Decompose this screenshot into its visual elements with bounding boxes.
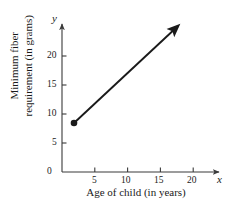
y-axis [62, 24, 67, 172]
x-tick-label-5: 5 [92, 176, 97, 186]
y-axis-ticks [62, 56, 67, 143]
x-axis-title: Age of child (in years) [56, 187, 216, 199]
y-tick-label-15: 15 [47, 80, 57, 90]
x-axis-symbol: x [217, 174, 222, 185]
x-tick-label-10: 10 [121, 176, 131, 186]
x-tick-label-15: 15 [154, 176, 164, 186]
x-axis-ticks [95, 168, 193, 173]
y-tick-label-5: 5 [52, 138, 57, 148]
start-point-marker [71, 120, 78, 127]
y-axis-title-line-2: requirement (in grams) [22, 0, 36, 136]
x-tick-label-20: 20 [187, 176, 197, 186]
y-axis-title: Minimum fiber requirement (in grams) [8, 0, 36, 136]
fiber-requirement-chart: 0 5 10 15 20 5 10 15 20 y x Age of child… [0, 0, 232, 208]
data-series-fiber-requirement [71, 26, 178, 126]
y-tick-label-10: 10 [47, 109, 57, 119]
y-axis-title-line-1: Minimum fiber [8, 0, 22, 136]
y-axis-symbol: y [52, 13, 57, 24]
y-tick-label-20: 20 [47, 51, 57, 61]
x-axis [62, 168, 219, 173]
trend-ray [74, 26, 178, 123]
origin-tick-label: 0 [47, 167, 52, 177]
